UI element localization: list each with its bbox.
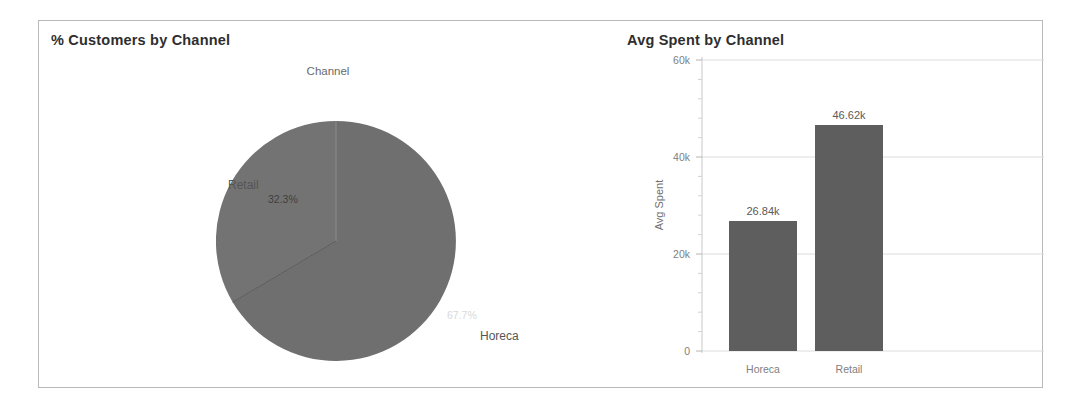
- dashboard-frame: % Customers by Channel Channel Retail Ho…: [38, 20, 1043, 388]
- y-minor-ticks: [698, 79, 702, 331]
- bar-chart-svg: 26.84k 46.62k 60k 40k 20k 0 Horeca Retai…: [617, 21, 1044, 389]
- pie-chart-svg: [216, 121, 456, 361]
- pie-chart: [216, 121, 456, 361]
- y-tick-label-60k: 60k: [673, 54, 691, 66]
- pie-label-retail: Retail: [228, 178, 259, 192]
- screenshot-root: % Customers by Channel Channel Retail Ho…: [0, 0, 1080, 408]
- bar-chart: 26.84k 46.62k 60k 40k 20k 0 Horeca Retai…: [617, 21, 1044, 389]
- x-tick-label-horeca: Horeca: [746, 363, 780, 375]
- bar-value-retail: 46.62k: [832, 109, 866, 121]
- x-tick-label-retail: Retail: [836, 363, 863, 375]
- y-tick-label-20k: 20k: [673, 248, 691, 260]
- pie-legend-title: Channel: [39, 65, 617, 77]
- pie-percent-horeca: 67.7%: [447, 309, 477, 321]
- pie-percent-retail: 32.3%: [268, 193, 298, 205]
- pie-label-horeca: Horeca: [480, 329, 519, 343]
- pie-panel-title: % Customers by Channel: [51, 32, 230, 48]
- y-axis-title: Avg Spent: [653, 180, 665, 231]
- bar-retail[interactable]: [815, 125, 883, 351]
- panel-percent-customers-by-channel: % Customers by Channel Channel Retail Ho…: [39, 21, 617, 387]
- panel-avg-spent-by-channel: Avg Spent by Channel: [617, 21, 1044, 387]
- y-tick-label-40k: 40k: [673, 151, 691, 163]
- bar-value-horeca: 26.84k: [746, 205, 780, 217]
- bar-horeca[interactable]: [729, 221, 797, 351]
- y-tick-label-0: 0: [684, 345, 690, 357]
